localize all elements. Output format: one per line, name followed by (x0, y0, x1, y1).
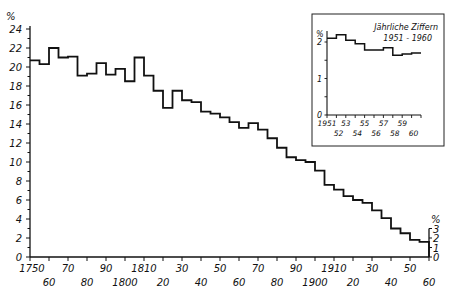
x-tick-label: 80 (81, 277, 94, 288)
y-tick-label: 24 (9, 24, 22, 35)
inset-x-tick-label: 54 (352, 129, 362, 138)
y-tick-label: 4 (16, 214, 22, 225)
x-tick-label: 1800 (112, 277, 137, 288)
inset-title-line2: 1951 - 1960 (383, 34, 432, 43)
x-tick-label: 50 (214, 263, 227, 274)
inset-x-tick-label: 56 (371, 129, 381, 138)
inset-x-tick-label: 53 (341, 119, 351, 128)
x-tick-label: 60 (233, 277, 246, 288)
y-tick-label: 20 (9, 62, 22, 73)
x-tick-label: 40 (385, 277, 398, 288)
y-tick-label: 22 (9, 43, 22, 54)
inset-x-tick-label: 55 (360, 119, 370, 128)
x-tick-label: 50 (404, 263, 417, 274)
inset-x-tick-label: 59 (397, 119, 407, 128)
inset-x-tick-label: 52 (334, 129, 344, 138)
right-axis-tick-label: 1 (433, 243, 439, 254)
right-axis-tick-label: 3 (433, 224, 439, 235)
y-tick-label: 2 (16, 233, 22, 244)
x-tick-label: 30 (366, 263, 379, 274)
x-tick-label: 30 (176, 263, 189, 274)
x-tick-label: 80 (271, 277, 284, 288)
inset-x-tick-label: 58 (390, 129, 400, 138)
y-axis-unit: % (6, 11, 16, 22)
y-tick-label: 16 (9, 100, 22, 111)
y-tick-label: 14 (9, 119, 22, 130)
y-tick-label: 6 (16, 195, 22, 206)
x-tick-label: 70 (62, 263, 75, 274)
inset-x-tick-label: 60 (409, 129, 419, 138)
right-axis-unit: % (431, 214, 441, 225)
x-tick-label: 1750 (19, 263, 44, 274)
inset-y-unit: % (316, 30, 324, 39)
y-tick-label: 10 (9, 157, 22, 168)
inset-x-tick-label: 57 (379, 119, 389, 128)
x-tick-label: 70 (252, 263, 265, 274)
x-tick-label: 20 (347, 277, 360, 288)
inset-x-tick-label: 1951 (317, 119, 336, 128)
x-tick-label: 60 (43, 277, 56, 288)
inset-chart: Jährliche Ziffern 1951 - 1960 012%195153… (312, 14, 444, 146)
x-tick-label: 90 (100, 263, 113, 274)
y-tick-label: 18 (9, 81, 22, 92)
x-tick-label: 40 (195, 277, 208, 288)
right-axis-tick-label: 0 (433, 252, 439, 263)
chart: 024681012141618202224%175070901810305070… (0, 0, 452, 299)
x-tick-label: 1810 (131, 263, 156, 274)
x-tick-label: 90 (290, 263, 303, 274)
x-tick-label: 1910 (321, 263, 346, 274)
y-tick-label: 0 (16, 252, 22, 263)
x-tick-label: 60 (423, 277, 436, 288)
right-axis-tick-label: 2 (433, 233, 439, 244)
y-tick-label: 12 (9, 138, 22, 149)
x-tick-label: 20 (157, 277, 170, 288)
x-tick-label: 1900 (302, 277, 327, 288)
inset-title-line1: Jährliche Ziffern (372, 23, 438, 32)
y-tick-label: 8 (16, 176, 22, 187)
inset-y-tick-label: 1 (317, 75, 322, 84)
inset-y-tick-label: 2 (317, 38, 322, 47)
